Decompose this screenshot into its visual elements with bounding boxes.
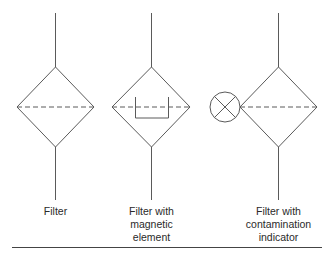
filter-magnetic-label: Filter with magnetic element	[97, 205, 207, 244]
label-line: Filter with	[224, 205, 331, 218]
filter-symbol	[17, 13, 94, 200]
label-line: element	[97, 231, 207, 244]
label-line: indicator	[224, 231, 331, 244]
label-line: Filter	[1, 205, 111, 218]
contamination-indicator-icon	[210, 92, 240, 122]
filter-contamination-symbol	[210, 13, 317, 200]
label-line: Filter with	[97, 205, 207, 218]
label-line: contamination	[224, 218, 331, 231]
filter-magnetic-symbol	[112, 13, 190, 200]
filter-label: Filter	[1, 205, 111, 218]
filter-contamination-label: Filter with contamination indicator	[224, 205, 331, 244]
label-line: magnetic	[97, 218, 207, 231]
